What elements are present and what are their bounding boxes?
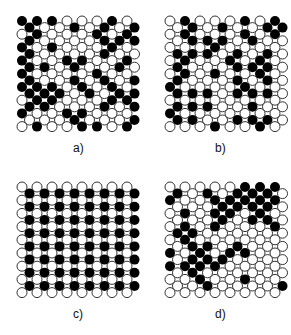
empty-circle xyxy=(77,195,87,205)
empty-circle xyxy=(92,288,102,298)
empty-circle xyxy=(77,261,87,271)
empty-circle xyxy=(32,261,42,271)
filled-circle xyxy=(188,255,198,265)
empty-circle xyxy=(77,208,87,218)
empty-circle xyxy=(47,195,57,205)
empty-circle xyxy=(62,208,72,218)
empty-circle xyxy=(180,122,190,132)
filled-circle xyxy=(255,195,265,205)
empty-circle xyxy=(32,195,42,205)
empty-circle xyxy=(85,115,95,125)
empty-circle xyxy=(195,122,205,132)
filled-circle xyxy=(233,189,243,199)
lattice-panel-c xyxy=(15,181,135,301)
lattice-panel-d xyxy=(163,181,283,301)
empty-circle xyxy=(165,69,175,79)
empty-circle xyxy=(225,122,235,132)
empty-circle xyxy=(195,235,205,245)
empty-circle xyxy=(17,29,27,39)
empty-circle xyxy=(32,56,42,66)
empty-circle xyxy=(32,235,42,245)
empty-circle xyxy=(107,122,117,132)
empty-circle xyxy=(122,182,132,192)
filled-circle xyxy=(130,115,140,125)
empty-circle xyxy=(47,261,57,271)
filled-circle xyxy=(233,241,243,251)
empty-circle xyxy=(92,274,102,284)
filled-circle xyxy=(203,255,213,265)
empty-circle xyxy=(32,248,42,258)
filled-circle xyxy=(255,122,265,132)
empty-circle xyxy=(107,222,117,232)
filled-circle xyxy=(195,248,205,258)
empty-circle xyxy=(77,235,87,245)
filled-circle xyxy=(17,82,27,92)
empty-circle xyxy=(218,189,228,199)
filled-circle xyxy=(25,75,35,85)
filled-circle xyxy=(263,189,273,199)
empty-circle xyxy=(107,29,117,39)
empty-circle xyxy=(17,95,27,105)
empty-circle xyxy=(17,248,27,258)
filled-circle xyxy=(92,122,102,132)
empty-circle xyxy=(17,182,27,192)
empty-circle xyxy=(47,274,57,284)
empty-circle xyxy=(77,288,87,298)
empty-circle xyxy=(32,274,42,284)
empty-circle xyxy=(47,248,57,258)
filled-circle xyxy=(122,29,132,39)
filled-circle xyxy=(17,56,27,66)
filled-circle xyxy=(17,69,27,79)
lattice-panel-a xyxy=(15,15,135,135)
empty-circle xyxy=(32,288,42,298)
empty-circle xyxy=(210,29,220,39)
empty-circle xyxy=(32,208,42,218)
filled-circle xyxy=(115,89,125,99)
empty-circle xyxy=(210,248,220,258)
empty-circle xyxy=(107,182,117,192)
filled-circle xyxy=(77,122,87,132)
empty-circle xyxy=(47,208,57,218)
empty-circle xyxy=(32,182,42,192)
empty-circle xyxy=(107,235,117,245)
empty-circle xyxy=(47,222,57,232)
filled-circle xyxy=(165,108,175,118)
filled-circle xyxy=(225,195,235,205)
filled-circle xyxy=(255,182,265,192)
empty-circle xyxy=(165,222,175,232)
empty-circle xyxy=(62,235,72,245)
empty-circle xyxy=(180,42,190,52)
filled-circle xyxy=(240,182,250,192)
empty-circle xyxy=(255,82,265,92)
filled-circle xyxy=(218,202,228,212)
filled-circle xyxy=(32,122,42,132)
panel-label-b: b) xyxy=(215,141,226,155)
empty-circle xyxy=(17,274,27,284)
empty-circle xyxy=(195,82,205,92)
empty-circle xyxy=(32,222,42,232)
empty-circle xyxy=(47,122,57,132)
empty-circle xyxy=(165,95,175,105)
empty-circle xyxy=(225,288,235,298)
empty-circle xyxy=(270,122,280,132)
empty-circle xyxy=(180,288,190,298)
empty-circle xyxy=(17,195,27,205)
empty-circle xyxy=(195,288,205,298)
empty-circle xyxy=(62,222,72,232)
empty-circle xyxy=(47,288,57,298)
filled-circle xyxy=(240,195,250,205)
empty-circle xyxy=(165,56,175,66)
empty-circle xyxy=(180,108,190,118)
empty-circle xyxy=(195,42,205,52)
empty-circle xyxy=(122,195,132,205)
filled-circle xyxy=(180,222,190,232)
panel-label-d: d) xyxy=(215,307,226,321)
empty-circle xyxy=(107,195,117,205)
empty-circle xyxy=(17,288,27,298)
empty-circle xyxy=(165,42,175,52)
empty-circle xyxy=(92,235,102,245)
empty-circle xyxy=(92,248,102,258)
empty-circle xyxy=(70,102,80,112)
filled-circle xyxy=(278,23,288,33)
filled-circle xyxy=(210,122,220,132)
